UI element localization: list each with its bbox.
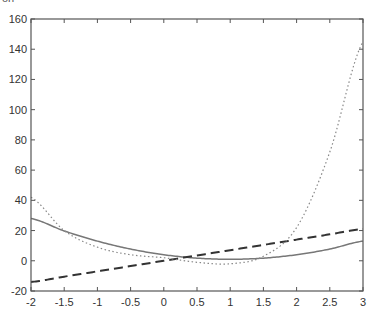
y-tick-label: 60 xyxy=(15,164,27,176)
x-tick-label: -0.5 xyxy=(121,296,140,308)
x-tick-label: 3 xyxy=(360,296,366,308)
y-tick-label: -20 xyxy=(11,285,27,297)
x-tick-label: 2 xyxy=(294,296,300,308)
x-tick-label: -2 xyxy=(26,296,36,308)
x-axis: -2-1.5-1-0.500.511.522.53 xyxy=(26,19,366,308)
dotted-series-line xyxy=(31,42,363,264)
x-tick-label: 1.5 xyxy=(256,296,271,308)
solid-series-line xyxy=(31,218,363,259)
y-axis: -20020406080100120140160 xyxy=(9,13,363,297)
series-layer xyxy=(31,42,363,282)
y-tick-label: 80 xyxy=(15,134,27,146)
y-tick-label: 20 xyxy=(15,225,27,237)
x-tick-label: 2.5 xyxy=(322,296,337,308)
axes-box xyxy=(31,19,363,291)
x-tick-label: 1 xyxy=(227,296,233,308)
y-tick-label: 0 xyxy=(21,255,27,267)
y-tick-label: 120 xyxy=(9,73,27,85)
x-tick-label: 0.5 xyxy=(189,296,204,308)
x-tick-label: -1.5 xyxy=(55,296,74,308)
x-tick-label: -1 xyxy=(93,296,103,308)
y-tick-label: 100 xyxy=(9,104,27,116)
y-tick-label: 160 xyxy=(9,13,27,25)
y-tick-label: 40 xyxy=(15,194,27,206)
line-chart: -2-1.5-1-0.500.511.522.53 -2002040608010… xyxy=(0,0,375,315)
x-tick-label: 0 xyxy=(161,296,167,308)
y-tick-label: 140 xyxy=(9,43,27,55)
